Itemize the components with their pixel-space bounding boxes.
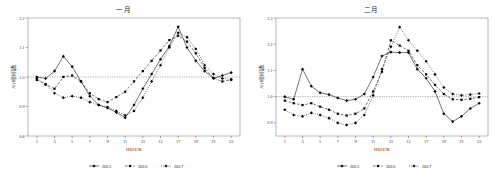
legend-label-2015[interactable]: 2015	[350, 164, 360, 169]
legend-label-2017[interactable]: 2017	[174, 164, 184, 169]
series-line-2017	[37, 33, 231, 116]
data-point	[389, 39, 391, 41]
data-point	[442, 93, 444, 95]
data-point	[212, 72, 215, 75]
data-point	[283, 95, 286, 98]
data-point	[186, 41, 188, 43]
data-point	[177, 35, 179, 37]
data-point	[221, 74, 224, 77]
data-point	[478, 96, 480, 98]
data-point	[406, 39, 409, 42]
data-point	[150, 72, 153, 75]
legend-marker	[412, 164, 415, 167]
data-point	[468, 93, 471, 96]
data-point	[371, 75, 374, 78]
data-point	[141, 87, 144, 90]
y-tick-label: 1.0	[267, 94, 272, 99]
legend-marker	[340, 164, 343, 167]
data-point	[88, 101, 91, 104]
y-tick-label: 0.9	[19, 104, 24, 109]
x-tick-label: 5	[71, 139, 74, 144]
data-point	[80, 80, 82, 82]
data-point	[300, 115, 303, 118]
legend-label-2017[interactable]: 2017	[422, 164, 432, 169]
series-line-2016	[284, 40, 478, 115]
data-point	[177, 31, 180, 34]
data-point	[71, 95, 74, 98]
data-point	[300, 68, 303, 71]
x-axis-label: HOUR	[126, 147, 142, 152]
legend-marker	[376, 165, 378, 167]
data-point	[151, 60, 153, 62]
data-point	[433, 84, 435, 86]
data-point	[141, 96, 144, 99]
data-point	[398, 51, 401, 54]
y-tick-label: 1.3	[267, 16, 272, 21]
x-tick-label: 1	[36, 139, 38, 144]
x-tick-label: 15	[406, 139, 411, 144]
data-point	[79, 96, 82, 99]
y-tick-label: 1.1	[267, 68, 272, 73]
data-point	[62, 76, 64, 78]
x-tick-label: 17	[176, 139, 181, 144]
x-tick-label: 11	[123, 139, 127, 144]
x-tick-label: 7	[336, 139, 339, 144]
x-tick-label: 19	[441, 139, 446, 144]
data-point	[142, 70, 144, 72]
data-point	[159, 64, 162, 67]
plot-frame	[276, 18, 488, 136]
data-point	[318, 113, 321, 116]
chart-panel-february: 二月 0.91.01.11.21.31357911131517192123AQI…	[248, 0, 495, 192]
x-tick-label: 17	[423, 139, 428, 144]
data-point	[469, 98, 471, 100]
x-tick-label: 13	[388, 139, 393, 144]
data-point	[398, 26, 401, 29]
data-point	[230, 71, 233, 74]
legend: 201520162017	[89, 164, 184, 169]
y-tick-label: 1.0	[19, 75, 24, 80]
data-point	[354, 113, 356, 115]
data-point	[195, 52, 197, 54]
data-point	[389, 51, 392, 54]
data-point	[362, 92, 365, 95]
legend-label-2015[interactable]: 2015	[102, 164, 112, 169]
x-tick-label: 13	[141, 139, 146, 144]
plot-area-january: 0.80.91.01.11.21357911131517192123AQI相对指…	[0, 0, 248, 192]
data-point	[221, 77, 224, 80]
data-point	[459, 94, 462, 97]
legend-label-2016[interactable]: 2016	[138, 164, 148, 169]
data-point	[301, 104, 303, 106]
data-point	[345, 114, 347, 116]
data-point	[310, 102, 312, 104]
data-point	[150, 80, 153, 83]
legend-label-2016[interactable]: 2016	[386, 164, 396, 169]
y-tick-label: 0.9	[267, 120, 272, 125]
x-tick-label: 23	[476, 139, 481, 144]
data-point	[159, 49, 161, 51]
data-point	[477, 92, 480, 95]
data-point	[319, 106, 321, 108]
data-point	[53, 88, 55, 90]
x-tick-label: 7	[89, 139, 92, 144]
data-point	[204, 67, 206, 69]
data-point	[380, 68, 383, 71]
x-tick-label: 21	[211, 139, 215, 144]
data-point	[309, 111, 312, 114]
data-point	[353, 98, 356, 101]
data-point	[336, 121, 339, 124]
chart-panel-january: 一月 0.80.91.01.11.21357911131517192123AQI…	[0, 0, 248, 192]
data-point	[451, 92, 454, 95]
data-point	[433, 90, 436, 93]
data-point	[292, 98, 295, 101]
legend-marker	[92, 164, 95, 167]
x-tick-label: 5	[319, 139, 322, 144]
y-axis-label: AQI相对指数	[10, 64, 17, 89]
data-point	[327, 117, 330, 120]
data-point	[71, 74, 73, 76]
data-point	[336, 113, 338, 115]
data-point	[159, 58, 162, 61]
data-point	[327, 109, 329, 111]
x-tick-label: 1	[283, 139, 285, 144]
y-axis-label: AQI相对指数	[258, 64, 265, 89]
data-point	[115, 96, 117, 98]
